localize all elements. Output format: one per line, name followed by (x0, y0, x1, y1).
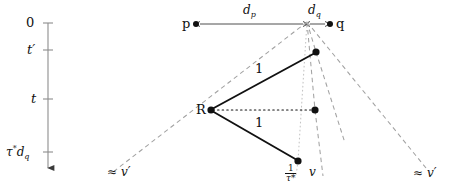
v-prime-glyph-right: v′ (427, 166, 437, 180)
point-label-p: p (182, 17, 190, 30)
ray-apex-to-middle-node (307, 22, 315, 110)
figure-canvas: 0 t′ t τ*dq p q dp dq R 1 1 ≈ v′ 1 τ* v … (0, 0, 466, 194)
axis-label-tau-star-dq: τ*dq (6, 145, 29, 161)
edge-label-lower-one: 1 (255, 116, 263, 129)
ray-label-left-v-prime: ≈ v′ (107, 166, 130, 178)
edge-R-to-upper-solid (212, 53, 315, 109)
dashed-ray-group (113, 22, 426, 176)
axis-label-t: t (31, 92, 36, 105)
ray-label-right-v-prime: ≈ v′ (413, 167, 436, 179)
measure-label-dp: dp (243, 4, 256, 19)
solid-edge-group (212, 53, 315, 160)
dp-subscript-glyph: p (251, 10, 256, 19)
ray-upper-node-extension (316, 52, 345, 143)
dp-d-glyph: d (243, 3, 251, 17)
edge-label-upper-one: 1 (255, 62, 263, 75)
approx-glyph-right: ≈ (413, 166, 423, 180)
ray-label-v: v (309, 166, 316, 178)
v-prime-glyph-left: v′ (121, 165, 131, 179)
node-dot-q (327, 21, 333, 27)
ray-apex-to-right-vprime (307, 22, 426, 168)
axis-label-0: 0 (26, 16, 34, 29)
dotted-ray-group (296, 22, 307, 176)
ray-label-inverse-tau-star: 1 τ* (285, 164, 296, 184)
node-dot-upper (312, 48, 319, 55)
node-dot-p (193, 21, 199, 27)
fraction-denominator: τ* (285, 174, 296, 183)
ray-middle-node-extension (315, 110, 323, 176)
axis-label-t-prime: t′ (27, 43, 35, 56)
diagram-vector-layer (0, 0, 466, 194)
point-label-q: q (336, 17, 344, 30)
node-label-R: R (196, 103, 206, 116)
tau-glyph: τ (6, 145, 13, 159)
measure-label-dq: dq (308, 4, 321, 19)
dq-d-glyph: d (308, 3, 316, 17)
ray-apex-to-lower-node (298, 22, 307, 161)
time-axis-group (43, 23, 53, 168)
node-dot-group (193, 21, 333, 165)
approx-glyph-left: ≈ (107, 165, 117, 179)
node-dot-R (207, 106, 214, 113)
ray-apex-to-upper-node (307, 22, 316, 52)
node-dot-middle (311, 106, 318, 113)
fraction-one-over-tau-star: 1 τ* (285, 164, 296, 184)
dq-subscript-glyph-2: q (316, 10, 321, 19)
dq-subscript-glyph: q (24, 152, 29, 161)
